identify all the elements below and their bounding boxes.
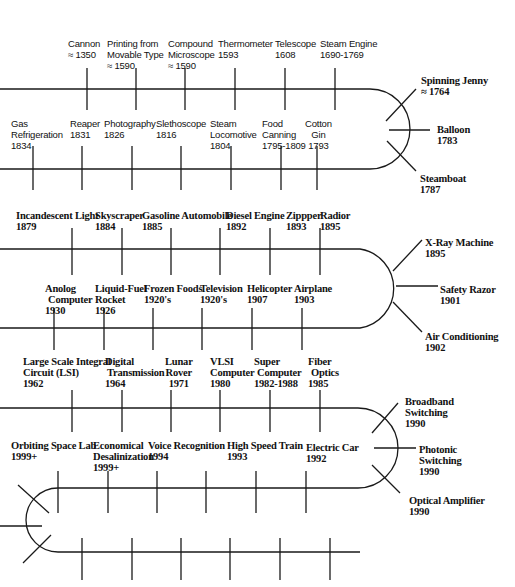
event-skyscraper: Skyscraper1884 <box>95 210 144 232</box>
event-cannon: Cannon≈ 1350 <box>68 38 100 60</box>
event-analog-computer: AnologComputer1930 <box>45 283 92 316</box>
event-printing: Printing fromMovable Type≈ 1590 <box>107 38 164 71</box>
event-frozen-foods: Frozen Foods1920's <box>144 283 202 305</box>
event-digital-transmission: DigitalTransmission1964 <box>105 356 165 389</box>
event-gasoline-automobile: Gasoline Automobile1885 <box>142 210 232 232</box>
event-economical-desalinization: EconomicalDesalinization1999+ <box>93 440 154 473</box>
event-air-conditioning: Air Conditioning1902 <box>425 331 498 353</box>
event-airplane: Airplane1903 <box>294 283 332 305</box>
event-gas-refrigeration: GasRefrigeration1834 <box>11 118 63 151</box>
event-liquid-fuel-rocket: Liquid-FuelRocket1926 <box>95 283 146 316</box>
event-steamboat: Steamboat1787 <box>420 173 466 195</box>
event-food-canning: FoodCanning1795-1809 <box>262 118 306 151</box>
event-television: Television1920's <box>200 283 243 305</box>
event-xray-machine: X-Ray Machine1895 <box>425 237 493 259</box>
event-super-computer: SuperComputer1982-1988 <box>254 356 301 389</box>
event-high-speed-train: High Speed Train1993 <box>227 440 303 462</box>
timeline-track-3 <box>0 390 416 580</box>
event-telescope: Telescope1608 <box>275 38 316 60</box>
event-cotton-gin: CottonGin1793 <box>305 118 332 151</box>
event-incandescent-light: Incandescent Light1879 <box>16 210 98 232</box>
event-helicopter: Helicopter1907 <box>247 283 292 305</box>
event-photonic-switching: PhotonicSwitching1990 <box>419 444 462 477</box>
event-vlsi-computer: VLSIComputer1980 <box>210 356 254 389</box>
event-lunar-rover: LunarRover1971 <box>165 356 193 389</box>
event-steam-engine: Steam Engine1690-1769 <box>320 38 377 60</box>
event-balloon: Balloon1783 <box>437 124 470 146</box>
event-zipper: Zippper1893 <box>286 210 321 232</box>
event-optical-amplifier: Optical Amplifier1990 <box>409 495 485 517</box>
event-steam-locomotive: SteamLocomotive1804 <box>210 118 257 151</box>
event-orbiting-space-lab: Orbiting Space Lab1999+ <box>11 440 96 462</box>
event-thermometer: Thermometer1593 <box>218 38 273 60</box>
event-fiber-optics: FiberOptics1985 <box>308 356 339 389</box>
event-photography: Photography1826 <box>104 118 156 140</box>
event-stethoscope: Slethoscope1816 <box>156 118 206 140</box>
event-reaper: Reaper1831 <box>70 118 100 140</box>
event-electric-car: Electric Car1992 <box>306 442 359 464</box>
event-broadband-switching: BroadbandSwitching1990 <box>405 396 454 429</box>
event-lsi: Large Scale IntegralCircuit (LSI)1962 <box>23 356 111 389</box>
event-spinning-jenny: Spinning Jenny≈ 1764 <box>421 75 488 97</box>
event-voice-recognition: Voice Recognition1994 <box>148 440 225 462</box>
event-safety-razor: Safety Razor1901 <box>440 284 496 306</box>
event-microscope: CompoundMicroscope≈ 1590 <box>168 38 215 71</box>
event-radio: Radior1895 <box>320 210 350 232</box>
event-diesel-engine: Diesel Engine1892 <box>226 210 284 232</box>
